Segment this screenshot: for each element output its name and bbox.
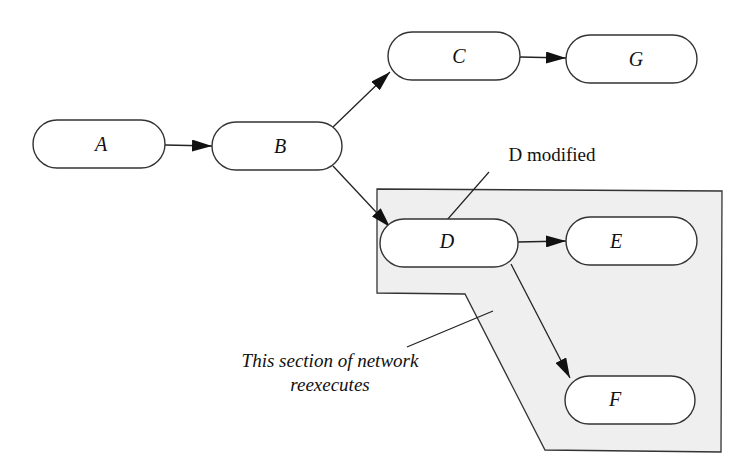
region-callout-line [407,311,493,347]
edge-c-g [520,57,566,58]
node-f-label: F [608,388,622,410]
region-annotation-line1: This section of network [242,350,419,371]
node-d-label: D [439,230,455,252]
node-a: A [33,120,165,168]
node-a-label: A [93,133,108,155]
node-b: B [212,122,342,170]
node-f: F [565,376,695,424]
edge-a-b [165,145,212,146]
node-c: C [388,32,520,80]
edge-b-c [333,72,390,127]
node-d: D [380,219,518,267]
network-diagram: A B C G D E F D modified This section of… [0,0,746,469]
node-g: G [566,35,697,83]
node-g-label: G [629,48,644,70]
node-b-label: B [274,135,286,157]
d-modified-annotation: D modified [508,144,596,165]
node-e: E [566,217,697,265]
node-e-label: E [609,230,622,252]
region-annotation-line2: reexecutes [290,374,369,395]
node-c-label: C [452,45,466,67]
